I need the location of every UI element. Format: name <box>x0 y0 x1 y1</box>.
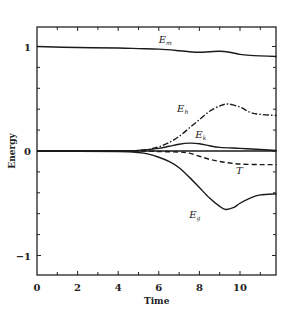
label-ek: Ek <box>194 129 206 141</box>
x-tick-label: 4 <box>115 282 122 293</box>
curves <box>37 47 277 210</box>
label-eh: Eh <box>176 103 188 115</box>
y-tick-label: 0 <box>24 146 31 157</box>
x-axis-label: Time <box>144 296 170 306</box>
energy-chart: 024681010−1 EmEhEkTEg Time Energy <box>0 0 296 323</box>
label-em: Em <box>158 34 172 46</box>
x-tick-label: 0 <box>34 282 41 293</box>
tick-labels: 024681010−1 <box>16 42 247 294</box>
label-eg: Eg <box>188 209 200 222</box>
y-axis-label: Energy <box>7 133 17 169</box>
x-tick-label: 2 <box>74 282 81 293</box>
x-tick-label: 10 <box>233 282 247 293</box>
curve-labels: EmEhEkTEg <box>158 34 244 222</box>
curve-eh <box>37 104 277 151</box>
y-tick-label: 1 <box>24 42 31 53</box>
curve-em <box>37 47 277 57</box>
label-t: T <box>236 165 244 176</box>
x-tick-label: 8 <box>196 282 203 293</box>
curve-t <box>37 151 277 165</box>
x-tick-label: 6 <box>155 282 162 293</box>
y-tick-label: −1 <box>16 251 31 262</box>
curve-eg <box>37 151 277 210</box>
